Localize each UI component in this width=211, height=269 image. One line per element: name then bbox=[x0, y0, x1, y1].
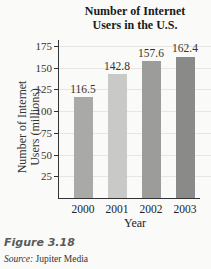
source-text: Jupiter Media bbox=[33, 254, 88, 264]
chart-title: Number of Internet Users in the U.S. bbox=[60, 4, 210, 32]
chart-title-line-1: Number of Internet bbox=[60, 4, 210, 18]
x-axis bbox=[58, 198, 200, 199]
figure-source: Source: Jupiter Media bbox=[4, 254, 88, 264]
y-tick-100 bbox=[54, 111, 58, 112]
y-tick-50 bbox=[54, 155, 58, 156]
x-tick-label-2003: 2003 bbox=[165, 203, 205, 215]
y-tick-25 bbox=[54, 176, 58, 177]
chart-title-line-2: Users in the U.S. bbox=[60, 18, 210, 32]
x-axis-title: Year bbox=[60, 216, 210, 231]
source-prefix: Source: bbox=[4, 254, 33, 264]
y-axis-title: Number of Internet Users (millions) bbox=[16, 52, 42, 202]
bar-2003 bbox=[176, 57, 195, 198]
value-label-2000: 116.5 bbox=[63, 83, 103, 95]
y-tick-150 bbox=[54, 68, 58, 69]
y-tick-175 bbox=[54, 46, 58, 47]
y-tick-125 bbox=[54, 89, 58, 90]
bar-2000 bbox=[74, 97, 93, 198]
figure-label: Figure 3.18 bbox=[4, 236, 75, 249]
value-label-2001: 142.8 bbox=[97, 60, 137, 72]
value-label-2003: 162.4 bbox=[165, 42, 205, 54]
y-axis bbox=[58, 40, 59, 199]
y-axis-title-line-2: Users (millions) bbox=[29, 52, 42, 202]
y-tick-label-175: 175 bbox=[22, 41, 52, 52]
bar-2001 bbox=[108, 74, 127, 198]
bar-2002 bbox=[142, 61, 161, 198]
y-tick-75 bbox=[54, 133, 58, 134]
